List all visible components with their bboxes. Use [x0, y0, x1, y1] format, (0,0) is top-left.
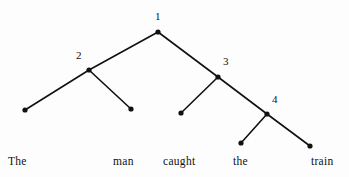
node-number-label-2: 2 — [76, 50, 82, 61]
internal-node-dot-n2 — [86, 67, 91, 72]
tree-edge-n3-n4 — [218, 77, 267, 114]
node-dots-group — [22, 29, 312, 148]
tree-edge-n1-n3 — [158, 32, 218, 77]
edges-group — [25, 32, 310, 146]
leaf-node-dot-l3 — [178, 110, 183, 115]
parse-tree-diagram: 1234 Themancaughtthetrain — [0, 0, 349, 177]
node-number-label-3: 3 — [223, 56, 229, 67]
tree-edge-n4-l5 — [267, 114, 310, 146]
leaf-node-dot-l2 — [128, 106, 133, 111]
leaf-node-dot-l5 — [307, 143, 312, 148]
word-label-train-4: train — [311, 155, 334, 167]
node-number-label-4: 4 — [272, 94, 278, 105]
tree-edge-n1-n2 — [89, 32, 158, 70]
tree-edges-and-nodes — [0, 0, 349, 177]
word-label-the-3: the — [233, 155, 248, 167]
tree-edge-n3-l3 — [181, 77, 218, 113]
internal-node-dot-n4 — [264, 111, 269, 116]
leaf-node-dot-l4 — [238, 140, 243, 145]
tree-edge-n4-l4 — [241, 114, 267, 143]
word-label-the-0: The — [8, 155, 27, 167]
internal-node-dot-n1 — [155, 29, 160, 34]
word-label-caught-2: caught — [163, 155, 195, 167]
leaf-node-dot-l1 — [22, 107, 27, 112]
internal-node-dot-n3 — [215, 74, 220, 79]
word-label-man-1: man — [113, 155, 134, 167]
tree-edge-n2-l2 — [89, 70, 131, 109]
tree-edge-n2-l1 — [25, 70, 89, 110]
node-number-label-1: 1 — [155, 11, 161, 22]
